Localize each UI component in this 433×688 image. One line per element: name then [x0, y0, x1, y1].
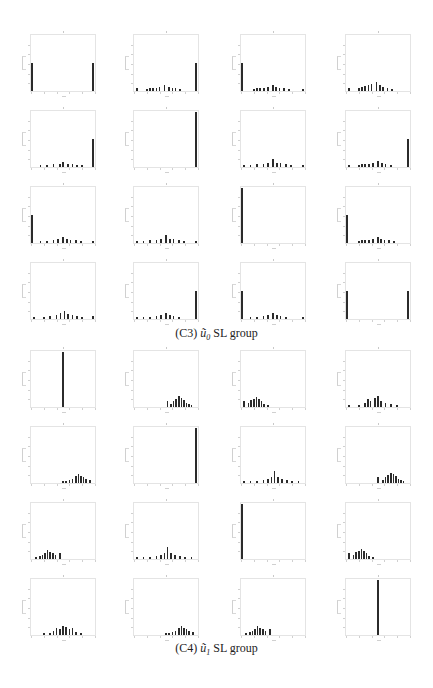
- x-tick: [185, 484, 186, 486]
- histogram-bar: [367, 399, 369, 407]
- y-tick: [238, 130, 240, 131]
- histogram-bar: [407, 291, 409, 319]
- histogram-bar: [348, 405, 350, 407]
- y-tick: [28, 159, 30, 160]
- y-axis-label: [125, 208, 129, 222]
- x-tick: [397, 636, 398, 638]
- x-tick: [82, 168, 83, 170]
- histogram-bar: [277, 477, 279, 483]
- histogram-bar: [80, 633, 82, 635]
- histogram-bar: [302, 317, 304, 319]
- y-tick: [131, 542, 133, 543]
- histogram-bar: [346, 291, 348, 319]
- y-axis-label: [337, 284, 341, 298]
- histogram-bar: [371, 84, 373, 91]
- histogram-bar: [272, 85, 274, 91]
- x-tick: [254, 636, 255, 638]
- histogram-bar: [49, 552, 51, 559]
- y-tick: [343, 121, 345, 122]
- x-tick: [172, 636, 173, 638]
- plot-title-mark: [63, 31, 64, 33]
- histogram-bar: [348, 165, 350, 167]
- histogram-bar: [72, 479, 74, 483]
- histogram-bar: [267, 479, 269, 483]
- histogram-bar: [390, 404, 392, 407]
- plot-title-mark: [166, 259, 167, 261]
- histogram-bar: [85, 479, 87, 483]
- y-tick: [28, 513, 30, 514]
- x-tick: [44, 636, 45, 638]
- y-tick: [28, 64, 30, 65]
- x-tick: [44, 560, 45, 562]
- y-tick: [131, 513, 133, 514]
- x-axis-label: [165, 488, 169, 489]
- histogram-bar: [55, 555, 57, 559]
- x-tick: [359, 484, 360, 486]
- histogram-bar: [241, 291, 243, 319]
- histogram-bar: [353, 555, 355, 559]
- histogram-bar: [192, 632, 194, 635]
- histogram-plot: [30, 578, 96, 636]
- histogram-bar: [243, 401, 245, 407]
- histogram-bar: [53, 631, 55, 635]
- histogram-bar: [263, 316, 265, 319]
- plot-title-mark: [378, 575, 379, 577]
- x-tick: [172, 244, 173, 246]
- histogram-plot: [30, 502, 96, 560]
- y-tick: [131, 282, 133, 283]
- y-tick: [238, 589, 240, 590]
- x-tick: [57, 244, 58, 246]
- x-tick: [267, 92, 268, 94]
- histogram-plot: [30, 186, 96, 244]
- histogram-bar: [165, 633, 167, 635]
- x-tick: [57, 484, 58, 486]
- histogram-bar: [149, 317, 151, 319]
- y-tick: [343, 206, 345, 207]
- x-tick: [279, 168, 280, 170]
- y-tick: [131, 390, 133, 391]
- histogram-bar: [250, 165, 252, 167]
- y-tick: [238, 380, 240, 381]
- y-tick: [343, 282, 345, 283]
- histogram-bar: [188, 631, 190, 635]
- histogram-bar: [165, 313, 167, 319]
- plot-title-mark: [378, 107, 379, 109]
- histogram-bar: [382, 480, 384, 483]
- x-tick: [279, 560, 280, 562]
- x-axis-label: [272, 412, 276, 413]
- y-tick: [343, 235, 345, 236]
- x-tick: [31, 320, 32, 322]
- x-tick: [292, 560, 293, 562]
- x-axis-label: [165, 412, 169, 413]
- x-tick: [359, 320, 360, 322]
- y-tick: [343, 311, 345, 312]
- y-tick: [343, 522, 345, 523]
- x-tick: [31, 244, 32, 246]
- histogram-plot: [345, 350, 411, 408]
- y-tick: [238, 311, 240, 312]
- plot-title-mark: [273, 31, 274, 33]
- histogram-bar: [267, 87, 269, 91]
- x-tick: [410, 636, 411, 638]
- x-tick: [241, 408, 242, 410]
- x-tick: [95, 560, 96, 562]
- x-tick: [69, 408, 70, 410]
- y-tick: [131, 45, 133, 46]
- x-tick: [82, 92, 83, 94]
- histogram-plot: [345, 578, 411, 636]
- x-tick: [44, 168, 45, 170]
- histogram-bar: [377, 237, 379, 243]
- y-tick: [131, 466, 133, 467]
- histogram-bar: [170, 404, 172, 407]
- plot-title-mark: [166, 347, 167, 349]
- histogram-bar: [47, 550, 49, 559]
- histogram-bar: [374, 398, 376, 407]
- y-tick: [28, 390, 30, 391]
- y-tick: [28, 399, 30, 400]
- y-tick: [28, 437, 30, 438]
- y-tick: [28, 216, 30, 217]
- y-tick: [131, 608, 133, 609]
- histogram-bar: [261, 401, 263, 407]
- histogram-bar: [169, 239, 171, 243]
- caption-c3: (C3) ũ0 SL group: [0, 326, 433, 342]
